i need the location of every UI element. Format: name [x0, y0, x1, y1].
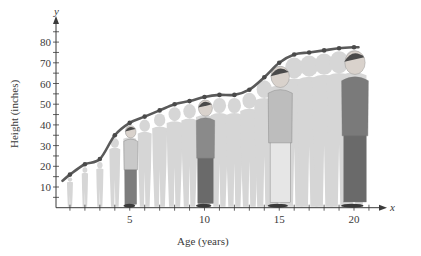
data-point-marker — [292, 52, 297, 57]
data-point-marker — [172, 102, 177, 107]
x-tick-label: 10 — [195, 213, 215, 225]
y-tick-label: 50 — [29, 98, 51, 110]
data-point-marker — [157, 108, 162, 113]
x-axis-variable: x — [390, 202, 395, 213]
data-point-marker — [113, 133, 118, 138]
data-point-marker — [247, 87, 252, 92]
x-tick-label: 5 — [120, 213, 140, 225]
data-point-marker — [337, 46, 342, 51]
data-point-marker — [232, 93, 237, 98]
data-point-marker — [307, 50, 312, 55]
data-point-marker — [322, 48, 327, 53]
silhouette-figure — [96, 162, 103, 207]
y-tick-label: 60 — [29, 78, 51, 90]
data-point-marker — [352, 45, 357, 50]
silhouette-figure — [152, 113, 167, 206]
y-tick-label: 10 — [29, 181, 51, 193]
age-silhouettes — [67, 50, 367, 206]
silhouette-figure — [138, 120, 152, 207]
data-point-marker — [127, 121, 132, 126]
data-point-marker — [217, 93, 222, 98]
y-tick-label: 40 — [29, 119, 51, 131]
x-tick-label: 15 — [269, 213, 289, 225]
data-point-marker — [98, 157, 103, 162]
silhouette-figure — [82, 167, 88, 206]
y-axis-label: Height (inches) — [8, 80, 20, 148]
y-tick-label: 20 — [29, 160, 51, 172]
data-point-marker — [277, 61, 282, 66]
silhouette-figure — [181, 104, 197, 207]
silhouette-figure — [167, 107, 183, 207]
data-point-marker — [187, 99, 192, 104]
x-tick-label: 20 — [344, 213, 364, 225]
data-point-marker — [262, 75, 267, 80]
y-tick-label: 80 — [29, 36, 51, 48]
silhouette-figure — [109, 138, 120, 206]
y-axis-variable: y — [54, 6, 59, 17]
data-point-marker — [68, 172, 73, 177]
silhouette-figure — [67, 178, 73, 207]
x-axis-label: Age (years) — [177, 236, 229, 247]
data-point-marker — [142, 114, 147, 119]
data-point-marker — [202, 95, 207, 100]
y-tick-label: 70 — [29, 57, 51, 69]
data-point-marker — [83, 162, 88, 167]
y-tick-label: 30 — [29, 140, 51, 152]
